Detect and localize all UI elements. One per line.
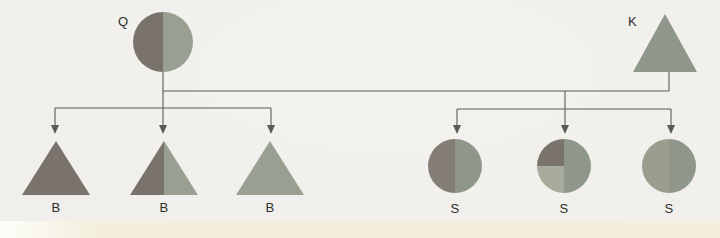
child-s1-circle bbox=[428, 139, 482, 193]
child-b3-label: B bbox=[258, 201, 282, 215]
child-s3-label: S bbox=[657, 202, 681, 216]
parent-q-label: Q bbox=[118, 15, 128, 29]
arrowhead-b3-icon bbox=[267, 125, 275, 134]
parent-k-label: K bbox=[628, 15, 637, 29]
arrowhead-s2-icon bbox=[561, 125, 569, 134]
arrowhead-s3-icon bbox=[667, 125, 675, 134]
arrowhead-b2-icon bbox=[159, 125, 167, 134]
connector-lines bbox=[0, 0, 720, 238]
pedigree-diagram: Q K B B B S S S bbox=[0, 0, 720, 238]
child-s2-circle bbox=[537, 139, 591, 193]
child-b2-label: B bbox=[152, 201, 176, 215]
arrowhead-b1-icon bbox=[51, 125, 59, 134]
child-b1-label: B bbox=[44, 201, 68, 215]
child-s1-label: S bbox=[443, 202, 467, 216]
child-s3-circle bbox=[642, 139, 696, 193]
child-s2-label: S bbox=[552, 202, 576, 216]
arrowhead-s1-icon bbox=[453, 125, 461, 134]
scanned-page-edge-band bbox=[0, 221, 720, 238]
parent-q-circle bbox=[133, 12, 193, 72]
